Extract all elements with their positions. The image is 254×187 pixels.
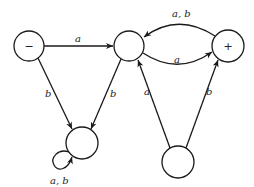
edge-label-mid-final: a [174, 54, 180, 65]
automaton-diagram: a b b a a, b a b a, b − + [0, 0, 254, 187]
state-start: − [14, 31, 44, 61]
nodes: − + [14, 30, 244, 178]
edge-bottom-mid [138, 60, 170, 148]
edge-label-sink-loop: a, b [50, 175, 69, 186]
state-mid [114, 31, 144, 61]
edge-bottom-final [186, 60, 218, 148]
edge-label-mid-sink: b [110, 88, 116, 99]
state-start-label: − [24, 40, 33, 53]
state-final: + [212, 30, 244, 62]
state-sink [66, 127, 98, 159]
edge-label-final-mid: a, b [172, 8, 191, 19]
edge-final-mid [144, 24, 215, 37]
edge-label-bottom-final: b [206, 86, 212, 97]
edge-label-bottom-mid: a [144, 86, 150, 97]
state-bottom [162, 146, 194, 178]
edge-start-sink [38, 58, 72, 129]
edge-label-start-sink: b [45, 88, 51, 99]
state-final-label: + [223, 40, 232, 53]
edge-label-start-mid: a [75, 33, 81, 44]
edge-mid-sink [91, 59, 121, 129]
edge-sink-loop [53, 151, 72, 169]
